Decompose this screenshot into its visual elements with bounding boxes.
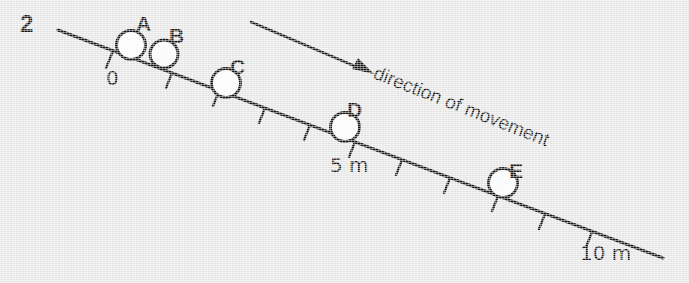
scale-label-10m: 10 m: [580, 243, 631, 263]
tick-mark-1: [166, 73, 172, 88]
tick-mark-6: [396, 160, 402, 175]
tick-group: [106, 51, 592, 247]
scale-label-5m: 5 m: [330, 155, 369, 175]
tick-mark-8: [492, 196, 498, 211]
figure-number-label: 2: [20, 12, 33, 36]
ball-label-c: C: [230, 56, 245, 77]
ball-label-b: B: [169, 25, 184, 46]
tick-mark-3: [259, 108, 265, 123]
ball-label-a: A: [136, 13, 151, 34]
tick-mark-7: [444, 178, 450, 193]
ball-label-e: E: [509, 160, 523, 181]
tick-mark-4: [304, 125, 310, 140]
ball-label-d: D: [347, 99, 362, 120]
direction-arrow-icon: [251, 22, 374, 74]
origin-label: 0: [106, 68, 119, 88]
tick-mark-9: [539, 214, 545, 229]
physics-figure: 2 0 A B C D E 5 m 10 m direction of move…: [0, 0, 689, 283]
